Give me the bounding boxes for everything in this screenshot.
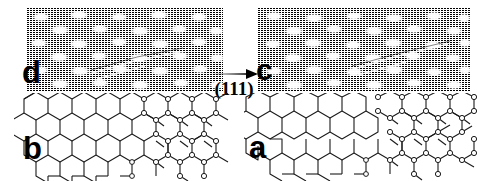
stm-figure: d bbox=[0, 0, 477, 181]
lattice-model-b bbox=[14, 93, 229, 181]
stm-panel-c bbox=[258, 8, 470, 92]
lattice-model-a bbox=[244, 93, 477, 181]
stm-image-c bbox=[258, 8, 470, 92]
panel-label-a: a bbox=[249, 132, 266, 163]
panel-label-b: b bbox=[23, 133, 42, 164]
stm-panel-d bbox=[27, 8, 223, 92]
model-panel-a bbox=[244, 93, 477, 181]
model-panel-b bbox=[14, 93, 229, 181]
panel-label-d: d bbox=[22, 57, 41, 88]
stm-image-d bbox=[27, 8, 223, 92]
